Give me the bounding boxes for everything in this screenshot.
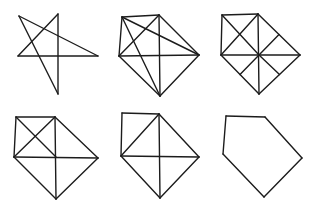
line-segment — [14, 157, 56, 199]
line-figures-svg — [0, 0, 320, 213]
line-segment — [259, 35, 279, 56]
figure-pentagram-star — [18, 14, 98, 94]
line-segment — [264, 158, 302, 197]
figure-pentagon-with-all-diagonals — [119, 15, 199, 96]
line-segment — [16, 117, 56, 157]
line-segment — [19, 16, 58, 94]
line-segment — [121, 156, 160, 198]
line-segment — [222, 15, 259, 55]
line-segment — [222, 14, 258, 15]
line-segment — [226, 116, 265, 117]
line-segment — [159, 15, 199, 55]
line-segment — [18, 14, 58, 56]
figure-pentagon-outline — [223, 116, 302, 197]
line-segment — [121, 113, 122, 156]
line-segment — [159, 114, 199, 157]
figure-square-diamond-eight-rays — [221, 14, 300, 94]
line-segment — [55, 117, 98, 158]
line-segment — [223, 116, 226, 154]
puzzle-figures-canvas — [0, 0, 320, 213]
line-segment — [265, 117, 302, 158]
line-segment — [122, 17, 199, 55]
line-segment — [119, 56, 160, 96]
line-segment — [119, 17, 122, 56]
figure-square-single-diagonal-diamond-cross — [121, 113, 199, 198]
line-segment — [223, 154, 264, 197]
line-segment — [121, 114, 159, 156]
line-segment — [240, 55, 259, 75]
line-segment — [56, 158, 98, 199]
line-segment — [122, 15, 159, 17]
line-segment — [121, 156, 199, 157]
line-segment — [14, 117, 16, 157]
line-segment — [259, 55, 280, 75]
line-segment — [160, 157, 199, 198]
line-segment — [14, 157, 98, 158]
figure-square-x-diamond-cross — [14, 117, 98, 199]
line-segment — [14, 117, 55, 157]
line-segment — [119, 55, 199, 56]
line-segment — [119, 15, 159, 56]
line-segment — [160, 55, 199, 96]
line-segment — [221, 15, 222, 55]
line-segment — [122, 113, 159, 114]
